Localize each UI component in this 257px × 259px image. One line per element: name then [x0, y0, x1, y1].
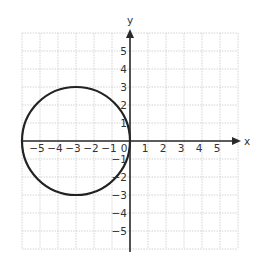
x-tick-label: 2 [160, 142, 167, 154]
y-tick-label: 1 [120, 117, 127, 129]
y-tick-label: −3 [112, 189, 127, 201]
x-tick-label: −4 [47, 142, 63, 154]
x-tick-label: 4 [196, 142, 203, 154]
y-axis-label: y [127, 14, 133, 26]
x-axis-label: x [244, 135, 250, 147]
x-axis-arrow-icon [232, 137, 241, 145]
y-tick-label: −2 [112, 171, 127, 183]
x-tick-label: 3 [178, 142, 185, 154]
y-axis-arrow-icon [126, 29, 134, 38]
x-tick-label: 5 [214, 142, 221, 154]
coordinate-plane: −5−4−3−2−1012345 −5−4−3−2−112345 x y [0, 0, 257, 259]
y-tick-label: 4 [120, 63, 127, 75]
y-tick-label: −1 [112, 153, 127, 165]
axes [22, 29, 241, 252]
y-tick-label: 5 [120, 45, 127, 57]
x-tick-label: 1 [142, 142, 149, 154]
x-tick-label: −5 [29, 142, 44, 154]
x-tick-label: −2 [83, 142, 98, 154]
y-tick-label: −4 [112, 207, 128, 219]
y-tick-label: 2 [120, 99, 127, 111]
y-tick-label: −5 [112, 225, 127, 237]
x-tick-label: −3 [65, 142, 80, 154]
y-tick-label: 3 [120, 81, 127, 93]
